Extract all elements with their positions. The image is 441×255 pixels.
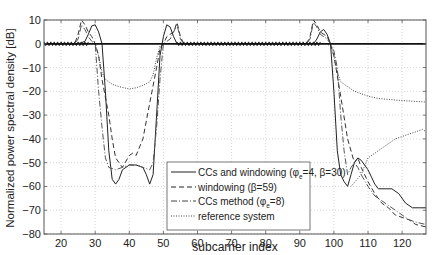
y-tick-label: −20 [22, 85, 41, 97]
y-tick-label: −10 [22, 62, 41, 74]
x-tick-label: 120 [393, 237, 411, 249]
legend-item-1: windowing (β=59) [197, 182, 277, 193]
x-tick-label: 50 [157, 237, 169, 249]
y-tick-label: 10 [29, 14, 41, 26]
series-dotted-lower [351, 129, 426, 186]
psd-chart: 100−10−20−30−40−50−60−70−80 203040506070… [0, 0, 441, 255]
x-tick-label: 100 [325, 237, 343, 249]
x-axis-label: subcarrier index [192, 240, 277, 254]
x-tick-label: 40 [123, 237, 135, 249]
legend: CCs and windowing (φe=4, β=30) windowing… [167, 162, 346, 230]
y-axis-label: Normalized power spectral density [dB] [4, 28, 16, 227]
y-tick-label: −70 [22, 204, 41, 216]
x-tick-label: 90 [294, 237, 306, 249]
y-tick-label: −50 [22, 157, 41, 169]
x-tick-label: 30 [89, 237, 101, 249]
legend-item-3: reference system [198, 211, 275, 222]
y-tick-label: 0 [35, 38, 41, 50]
y-tick-label: −80 [22, 228, 41, 240]
y-tick-label: −60 [22, 180, 41, 192]
x-tick-label: 110 [359, 237, 377, 249]
x-tick-label: 20 [55, 237, 67, 249]
y-tick-label: −30 [22, 109, 41, 121]
y-tick-label: −40 [22, 133, 41, 145]
